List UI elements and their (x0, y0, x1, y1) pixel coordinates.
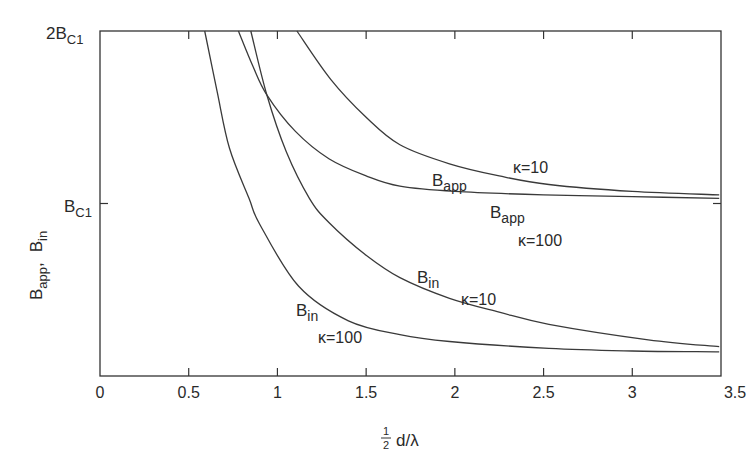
x-tick-label: 1.5 (355, 384, 377, 401)
chart: 00.511.522.533.5 2BC1 BC1 Bapp,Bin 1 2 d… (0, 0, 754, 470)
y-axis-label: Bapp,Bin (27, 231, 50, 300)
svg-text:1: 1 (383, 425, 389, 437)
annotation-bapp-k100-kappa: κ=100 (518, 232, 562, 249)
y-tick-label-bc1: BC1 (64, 197, 92, 220)
x-tick-label: 2 (450, 384, 459, 401)
annotation-bapp-k100-symbol: Bapp (490, 203, 525, 226)
svg-text:2: 2 (383, 439, 389, 451)
x-tick-label: 3.5 (724, 384, 746, 401)
x-tick-label: 3 (628, 384, 637, 401)
x-tick-label: 0.5 (178, 384, 200, 401)
annotation-bin-k100-kappa: κ=100 (318, 329, 362, 346)
axis-ticks (100, 31, 721, 376)
curve-b-app-10 (297, 31, 719, 195)
x-axis-label: 1 2 d/λ (381, 425, 419, 451)
annotation-bapp-k10-kappa: κ=10 (513, 159, 548, 176)
x-tick-label: 1 (273, 384, 282, 401)
plot-frame (100, 31, 721, 376)
x-tick-label: 2.5 (532, 384, 554, 401)
curve-b-app-100 (238, 31, 719, 198)
annotation-bin-k10-kappa: κ=10 (461, 291, 496, 308)
svg-text:d/λ: d/λ (396, 431, 419, 450)
y-tick-label-2bc1: 2BC1 (46, 24, 83, 47)
x-tick-labels: 00.511.522.533.5 (96, 384, 747, 401)
annotation-bin-k100-symbol: Bin (296, 301, 318, 324)
x-tick-label: 0 (96, 384, 105, 401)
